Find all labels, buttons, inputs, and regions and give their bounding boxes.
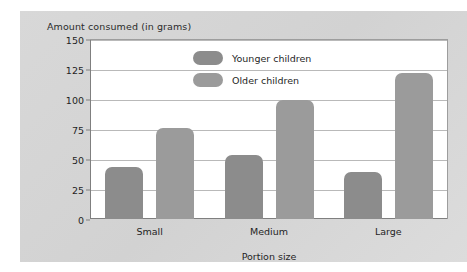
bar [225,155,263,219]
gridline [90,100,447,101]
legend-label-younger-children: Younger children [232,53,311,64]
y-axis-tick-label: 150 [66,35,84,46]
chart-legend: Younger children Older children [193,49,311,93]
plot-area: 0255075100125150SmallMediumLarge Younger… [90,39,448,219]
y-axis-tick-label: 100 [66,95,84,106]
y-axis-tick-label: 125 [66,65,84,76]
bar [105,167,143,219]
x-axis-tick-label: Large [375,226,402,237]
legend-swatch-younger-children [193,51,223,65]
y-axis-tick-label: 50 [72,155,84,166]
x-axis-tick-label: Medium [250,226,288,237]
chart-title: Amount consumed (in grams) [47,21,191,32]
gridline [90,130,447,131]
gridline [90,160,447,161]
legend-item-older-children: Older children [193,71,311,89]
x-axis-label: Portion size [90,251,448,262]
legend-item-younger-children: Younger children [193,49,311,67]
legend-swatch-older-children [193,73,223,87]
bar [156,128,194,219]
chart-figure: Amount consumed (in grams) 0255075100125… [0,0,467,272]
x-axis-tick-label: Small [136,226,162,237]
bar [276,100,314,219]
gridline [90,190,447,191]
y-axis-tick-label: 75 [72,125,84,136]
bar [395,73,433,219]
y-axis-line [90,40,91,219]
x-axis-line [90,218,447,219]
chart-panel: Amount consumed (in grams) 0255075100125… [20,11,467,262]
legend-label-older-children: Older children [232,75,299,86]
gridline [90,40,447,41]
y-axis-tick-mark [86,220,90,221]
y-axis-tick-label: 0 [78,215,84,226]
bar [344,172,382,219]
y-axis-tick-label: 25 [72,185,84,196]
